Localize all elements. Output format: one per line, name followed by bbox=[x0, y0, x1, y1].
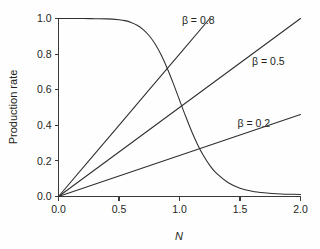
series-annotation: β = 0.8 bbox=[182, 14, 215, 26]
x-tick-label: 1.5 bbox=[233, 203, 248, 215]
x-axis-title: N bbox=[175, 230, 183, 242]
series-annotation: β = 0.2 bbox=[238, 117, 271, 129]
y-tick-label: 0.4 bbox=[37, 119, 52, 131]
y-tick-label: 0.6 bbox=[37, 83, 52, 95]
y-tick-label: 0.8 bbox=[37, 48, 52, 60]
chart-figure: 0.00.20.40.60.81.0 0.00.51.01.52.0 Produ… bbox=[0, 0, 320, 249]
series-annotation: β = 0.5 bbox=[252, 55, 285, 67]
y-tick-label: 0.0 bbox=[37, 190, 52, 202]
y-tick-label: 1.0 bbox=[37, 12, 52, 24]
x-tick-label: 0.0 bbox=[51, 203, 66, 215]
x-tick-label: 0.5 bbox=[112, 203, 127, 215]
production-rate-chart: 0.00.20.40.60.81.0 0.00.51.01.52.0 Produ… bbox=[0, 0, 320, 249]
y-tick-label: 0.2 bbox=[37, 155, 52, 167]
y-axis-title: Production rate bbox=[7, 70, 19, 145]
x-tick-label: 1.0 bbox=[172, 203, 187, 215]
x-tick-label: 2.0 bbox=[293, 203, 308, 215]
